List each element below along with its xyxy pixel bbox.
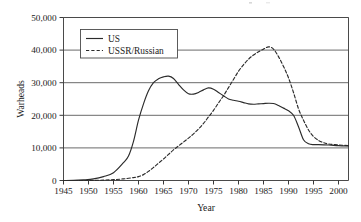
x-axis-title: Year: [197, 202, 215, 213]
legend-label-us: US: [108, 34, 120, 44]
y-tick-label-30000: 30,000: [31, 78, 57, 88]
y-tick-label-20000: 20,000: [31, 111, 57, 121]
x-axis-ticks: [64, 181, 339, 185]
x-axis-tick-labels: 1945195019551960196519701975198019851990…: [54, 186, 348, 196]
x-tick-label-1970: 1970: [179, 186, 198, 196]
chart-container: 010,00020,00030,00040,00050,000 19451950…: [0, 0, 361, 222]
x-tick-label-1980: 1980: [229, 186, 248, 196]
x-tick-label-1950: 1950: [79, 186, 98, 196]
series-line-us: [64, 76, 349, 180]
page-bleed-artifact-2: [266, 2, 270, 3]
x-tick-label-1960: 1960: [129, 186, 148, 196]
y-tick-label-40000: 40,000: [31, 45, 57, 55]
y-tick-label-50000: 50,000: [31, 13, 57, 23]
x-tick-label-1995: 1995: [304, 186, 323, 196]
y-tick-label-0: 0: [52, 176, 57, 186]
x-tick-label-2000: 2000: [329, 186, 348, 196]
page-bleed-artifact: [249, 2, 252, 4]
y-tick-label-10000: 10,000: [31, 143, 57, 153]
x-tick-label-1990: 1990: [279, 186, 298, 196]
series-line-ussr-russian: [64, 47, 349, 181]
warheads-line-chart: 010,00020,00030,00040,00050,000 19451950…: [0, 0, 361, 222]
x-tick-label-1965: 1965: [154, 186, 173, 196]
x-tick-label-1985: 1985: [254, 186, 273, 196]
y-axis-title: Warheads: [15, 80, 26, 118]
x-tick-label-1945: 1945: [54, 186, 73, 196]
x-tick-label-1975: 1975: [204, 186, 223, 196]
legend-label-ussr-russian: USSR/Russian: [108, 46, 164, 56]
chart-legend[interactable]: US USSR/Russian: [81, 30, 178, 59]
y-axis-tick-labels: 010,00020,00030,00040,00050,000: [31, 13, 57, 186]
y-axis-ticks: [60, 18, 64, 181]
x-tick-label-1955: 1955: [104, 186, 123, 196]
data-series-group: [64, 47, 349, 181]
